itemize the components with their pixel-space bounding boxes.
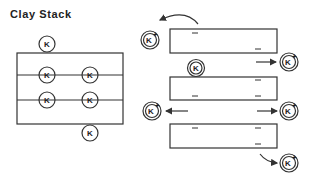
svg-text:K: K <box>285 58 291 67</box>
svg-text:+: + <box>153 30 158 39</box>
hydrated-k-ion-top-left: K + <box>141 30 159 49</box>
svg-text:K: K <box>87 129 93 138</box>
hydrated-k-ion-left: K + <box>143 101 161 120</box>
svg-text:K: K <box>148 107 154 116</box>
hydrated-k-ion-mid-right: K + <box>280 52 298 71</box>
release-arrow-bottom <box>260 154 277 163</box>
svg-text:+: + <box>292 153 297 162</box>
svg-text:K: K <box>285 159 291 168</box>
svg-text:K: K <box>193 64 199 73</box>
clay-stack-outline <box>17 53 123 124</box>
svg-text:K: K <box>285 107 291 116</box>
svg-text:K: K <box>146 36 152 45</box>
svg-text:K: K <box>44 40 50 49</box>
svg-text:+: + <box>292 101 297 110</box>
hydrated-k-ion-bottom-right: K + <box>280 153 298 172</box>
hydrated-k-ion-right: K + <box>280 101 298 120</box>
expanded-clay-plates: K K + K + K + K + K <box>141 15 298 172</box>
svg-text:K: K <box>87 96 93 105</box>
svg-text:K: K <box>87 71 93 80</box>
svg-text:+: + <box>155 101 160 110</box>
svg-text:K: K <box>44 96 50 105</box>
release-arrow-top <box>160 15 198 24</box>
clay-stack-diagram: K K K K K K <box>0 0 313 184</box>
svg-text:+: + <box>292 52 297 61</box>
collapsed-clay-stack: K K K K K K <box>17 36 123 141</box>
svg-text:K: K <box>44 71 50 80</box>
k-ion-bound: K <box>188 60 205 77</box>
k-ion-bottom: K <box>82 125 98 141</box>
k-ion-top: K <box>39 36 55 52</box>
